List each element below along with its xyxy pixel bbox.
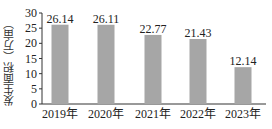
bar-2021年 xyxy=(145,35,162,104)
y-tick-label: 20 xyxy=(25,36,37,50)
y-tick-label: 15 xyxy=(25,52,37,66)
bar-2022年 xyxy=(190,39,207,104)
y-tick-label: 0 xyxy=(31,97,37,111)
bar-value-label: 26.11 xyxy=(93,12,120,26)
x-tick-label: 2022年 xyxy=(180,107,216,121)
y-tick-label: 10 xyxy=(25,67,37,81)
x-tick-label: 2021年 xyxy=(135,107,171,121)
bar-2020年 xyxy=(98,25,115,104)
y-tick-label: 5 xyxy=(31,82,37,96)
bar-value-label: 12.14 xyxy=(230,54,257,68)
bar-2023年 xyxy=(235,67,252,104)
y-tick-label: 30 xyxy=(25,6,37,20)
bar-value-label: 22.77 xyxy=(140,22,167,36)
bar-value-label: 26.14 xyxy=(47,12,74,26)
y-tick-label: 25 xyxy=(25,21,37,35)
bar-value-label: 21.43 xyxy=(185,26,212,40)
x-tick-label: 2023年 xyxy=(225,107,261,121)
bar-2019年 xyxy=(52,25,69,104)
x-tick-label: 2019年 xyxy=(42,107,78,121)
bar-chart: 05101520253026.142019年26.112020年22.77202… xyxy=(0,0,272,129)
x-tick-label: 2020年 xyxy=(88,107,124,121)
